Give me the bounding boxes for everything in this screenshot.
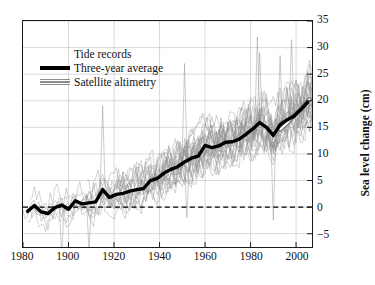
y-tick-label: 10 <box>317 148 329 160</box>
x-tick-label: 1940 <box>148 251 171 263</box>
chart-legend: Tide records Three-year average Satellit… <box>40 47 163 89</box>
y-tick-label: 35 <box>317 14 329 26</box>
y-tick-label: −5 <box>317 229 329 241</box>
y-tick-label: 15 <box>317 121 329 133</box>
y-axis-title-text: Sea level change (cm) <box>359 89 371 196</box>
legend-item-satellite-altimetry: Satellite altimetry <box>40 75 163 88</box>
legend-label-satellite-altimetry: Satellite altimetry <box>74 76 156 88</box>
x-tick-label: 1900 <box>56 251 79 263</box>
x-tick-label: 1980 <box>11 251 34 263</box>
x-tick-label: 1920 <box>102 251 125 263</box>
legend-swatch-three-year-average <box>40 62 70 73</box>
y-tick-label: 20 <box>317 94 329 106</box>
legend-label-three-year-average: Three-year average <box>74 62 163 74</box>
three-year-average-series <box>28 102 308 213</box>
y-axis-title: Sea level change (cm) <box>354 0 375 285</box>
y-tick-label: 5 <box>317 175 323 187</box>
sea-level-chart: Tide records Three-year average Satellit… <box>0 0 375 285</box>
legend-label-tide-records: Tide records <box>74 48 131 60</box>
y-tick-label: 25 <box>317 68 329 80</box>
x-tick-label: 1980 <box>240 251 263 263</box>
x-tick-label: 1960 <box>194 251 217 263</box>
x-tick-label: 2000 <box>285 251 308 263</box>
legend-swatch-satellite-altimetry <box>40 76 70 87</box>
legend-item-three-year-average: Three-year average <box>40 61 163 74</box>
y-tick-label: 0 <box>317 202 323 214</box>
legend-item-tide-records: Tide records <box>40 47 163 60</box>
y-tick-label: 30 <box>317 41 329 53</box>
